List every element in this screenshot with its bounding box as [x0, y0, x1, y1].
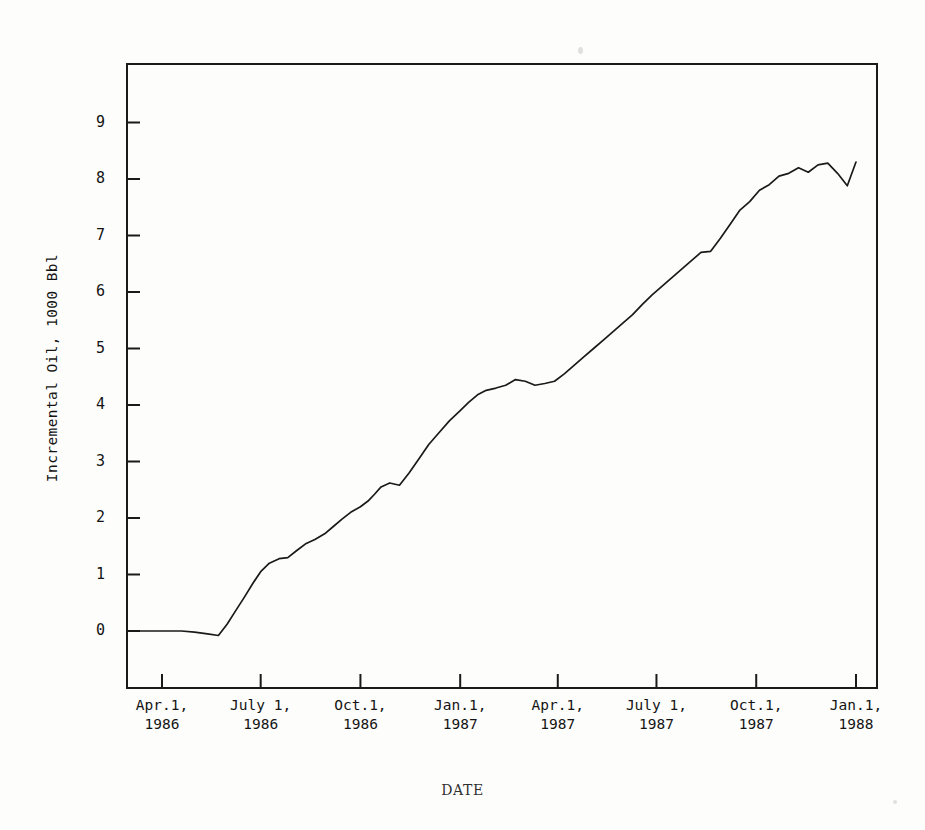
axis-frame — [127, 64, 877, 688]
x-tick-label: July 1,1986 — [206, 696, 316, 734]
x-tick-label: Jan.1,1987 — [405, 696, 515, 734]
y-tick-label: 9 — [75, 113, 105, 131]
figure-canvas: Incremental Oil, 1000 Bbl 0123456789 Apr… — [0, 0, 925, 830]
x-tick-label-line1: Oct.1, — [701, 696, 811, 715]
y-axis-ticks — [127, 123, 140, 632]
x-tick-label-line2: 1987 — [701, 715, 811, 734]
data-series-group — [128, 162, 856, 635]
scan-speck — [578, 47, 583, 54]
x-tick-label-line2: 1986 — [305, 715, 415, 734]
x-tick-label: July 1,1987 — [601, 696, 711, 734]
x-tick-label-line1: Oct.1, — [305, 696, 415, 715]
scan-speck — [893, 800, 897, 804]
y-tick-label: 4 — [75, 395, 105, 413]
x-tick-label-line1: Jan.1, — [801, 696, 911, 715]
x-tick-label: Oct.1,1987 — [701, 696, 811, 734]
y-tick-label: 5 — [75, 339, 105, 357]
x-tick-label: Apr.1,1986 — [107, 696, 217, 734]
x-axis-ticks — [162, 674, 856, 688]
y-tick-label: 8 — [75, 169, 105, 187]
y-tick-label: 6 — [75, 282, 105, 300]
x-tick-label: Jan.1,1988 — [801, 696, 911, 734]
incremental-oil-line — [128, 162, 856, 635]
x-tick-label-line1: Apr.1, — [503, 696, 613, 715]
x-tick-label: Apr.1,1987 — [503, 696, 613, 734]
x-tick-label-line1: Jan.1, — [405, 696, 515, 715]
x-tick-label-line2: 1986 — [107, 715, 217, 734]
x-tick-label-line1: July 1, — [601, 696, 711, 715]
x-tick-label-line1: Apr.1, — [107, 696, 217, 715]
x-tick-label-line1: July 1, — [206, 696, 316, 715]
y-tick-label: 0 — [75, 621, 105, 639]
x-axis-title: DATE — [0, 782, 925, 798]
x-tick-label-line2: 1988 — [801, 715, 911, 734]
x-tick-label-line2: 1987 — [503, 715, 613, 734]
y-tick-label: 2 — [75, 508, 105, 526]
x-tick-label-line2: 1986 — [206, 715, 316, 734]
y-tick-label: 3 — [75, 452, 105, 470]
y-tick-label: 1 — [75, 565, 105, 583]
x-tick-label-line2: 1987 — [405, 715, 515, 734]
x-tick-label-line2: 1987 — [601, 715, 711, 734]
y-tick-label: 7 — [75, 226, 105, 244]
x-tick-label: Oct.1,1986 — [305, 696, 415, 734]
